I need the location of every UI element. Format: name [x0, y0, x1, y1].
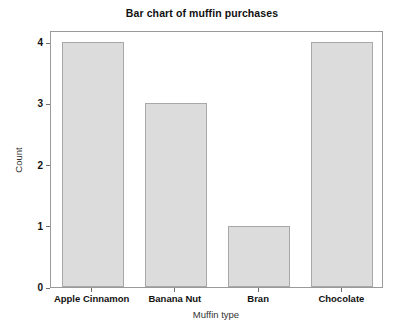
tick-mark: [91, 288, 92, 292]
x-tick-label: Chocolate: [281, 293, 401, 304]
bar-chart-figure: Bar chart of muffin purchases 01234 Coun…: [0, 0, 404, 331]
x-axis-title: Muffin type: [193, 309, 239, 320]
x-axis: Apple CinnamonBanana NutBranChocolate: [0, 0, 404, 331]
tick-mark: [174, 288, 175, 292]
tick-mark: [341, 288, 342, 292]
tick-mark: [258, 288, 259, 292]
